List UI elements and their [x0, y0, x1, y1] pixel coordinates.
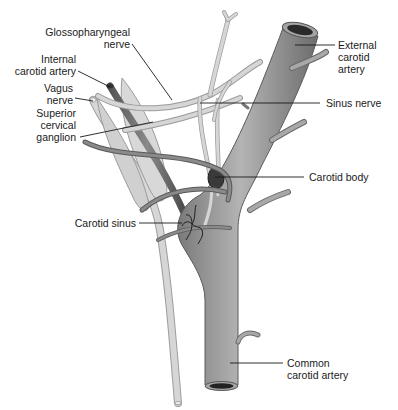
label-external-carotid-artery: External carotid artery	[338, 39, 396, 75]
label-internal-carotid-artery: Internal carotid artery	[6, 53, 76, 77]
label-vagus-nerve: Vagus nerve	[20, 82, 73, 106]
label-superior-cervical-ganglion: Superior cervical ganglion	[10, 107, 76, 143]
label-carotid-sinus: Carotid sinus	[50, 217, 136, 229]
label-common-carotid-artery: Common carotid artery	[287, 357, 387, 381]
label-sinus-nerve: Sinus nerve	[326, 97, 398, 109]
label-glossopharyngeal-nerve: Glossopharyngeal nerve	[40, 26, 130, 50]
label-carotid-body: Carotid body	[309, 171, 395, 183]
